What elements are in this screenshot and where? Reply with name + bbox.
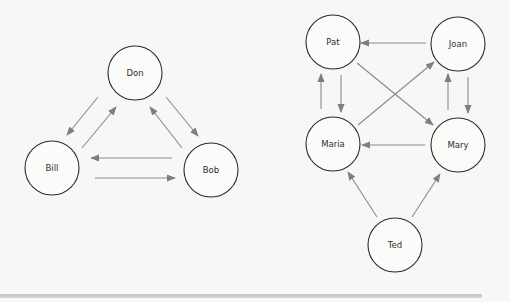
- node-label: Pat: [326, 37, 340, 47]
- arrow-line: [166, 97, 198, 136]
- node-label: Don: [126, 68, 143, 78]
- node-bob: Bob: [184, 143, 238, 197]
- left-graph-nodes: DonBillBob: [25, 46, 238, 197]
- node-joan: Joan: [431, 17, 485, 71]
- node-label: Ted: [387, 240, 402, 250]
- left-graph-edges: [67, 97, 198, 178]
- node-ted: Ted: [368, 218, 422, 272]
- node-don: Don: [108, 46, 162, 100]
- edge-bill-to-don: [82, 107, 116, 148]
- arrow-line: [348, 172, 377, 217]
- footer-rule: [0, 295, 482, 297]
- left-graph: DonBillBob: [25, 46, 238, 197]
- node-pat: Pat: [306, 15, 360, 69]
- node-bill: Bill: [25, 141, 79, 195]
- node-label: Maria: [321, 139, 345, 149]
- node-mary: Mary: [431, 118, 485, 172]
- edge-don-to-bob: [166, 97, 198, 136]
- node-label: Bob: [203, 165, 219, 175]
- sociogram-canvas: DonBillBob PatJoanMariaMaryTed: [0, 0, 510, 302]
- right-graph-nodes: PatJoanMariaMaryTed: [306, 15, 485, 272]
- edge-ted-to-mary: [412, 174, 440, 217]
- node-maria: Maria: [306, 117, 360, 171]
- edge-don-to-bill: [67, 97, 98, 135]
- arrow-line: [150, 107, 182, 148]
- edge-bob-to-don: [150, 107, 182, 148]
- node-label: Bill: [46, 163, 59, 173]
- right-graph: PatJoanMariaMaryTed: [306, 15, 485, 272]
- arrow-line: [67, 97, 98, 135]
- arrow-line: [358, 62, 434, 125]
- arrow-line: [412, 174, 440, 217]
- arrow-line: [82, 107, 116, 148]
- edge-maria-to-joan: [358, 62, 434, 125]
- node-label: Joan: [448, 39, 467, 49]
- edge-ted-to-maria: [348, 172, 377, 217]
- node-label: Mary: [447, 140, 468, 150]
